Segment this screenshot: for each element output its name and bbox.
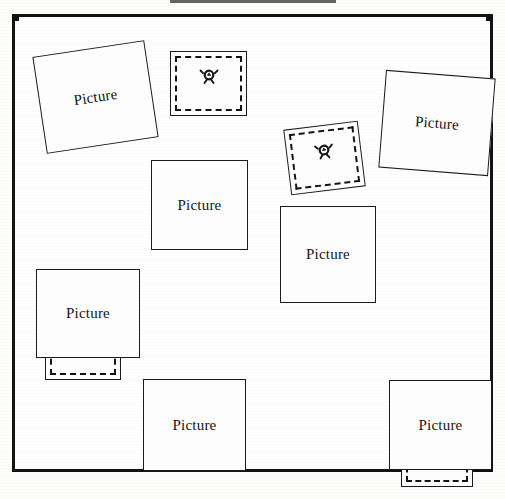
- picture-label: Picture: [178, 197, 222, 214]
- picture-placeholder-box[interactable]: Picture: [280, 206, 376, 303]
- picture-label: Picture: [306, 246, 350, 263]
- broken-image-icon: [192, 64, 226, 90]
- picture-placeholder-box[interactable]: Picture: [151, 160, 248, 250]
- picture-label: Picture: [419, 417, 463, 434]
- scanned-figure-page: Picture: [0, 0, 505, 499]
- picture-label: Picture: [66, 305, 110, 322]
- picture-label: Picture: [414, 113, 459, 133]
- broken-image-placeholder-box[interactable]: [170, 51, 247, 116]
- picture-placeholder-box[interactable]: Picture: [36, 269, 140, 358]
- picture-label: Picture: [73, 85, 119, 108]
- picture-placeholder-box[interactable]: Picture: [143, 379, 246, 471]
- figure-border-frame: Picture: [12, 14, 493, 472]
- picture-placeholder-box[interactable]: Picture: [378, 70, 495, 176]
- picture-placeholder-box[interactable]: Picture: [32, 40, 158, 154]
- picture-placeholder-box[interactable]: Picture: [389, 380, 492, 470]
- broken-image-placeholder-box[interactable]: [283, 121, 365, 196]
- broken-image-icon: [305, 137, 342, 167]
- picture-label: Picture: [173, 417, 217, 434]
- cropped-caption-rule: [170, 0, 336, 3]
